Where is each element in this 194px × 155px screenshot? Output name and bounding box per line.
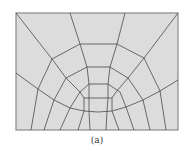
figure-caption: (a) — [0, 135, 194, 145]
domain-boundary — [16, 13, 178, 130]
mesh-diagram — [0, 0, 194, 155]
